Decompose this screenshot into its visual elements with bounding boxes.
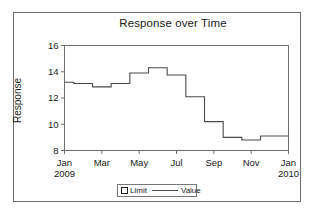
chart-legend: Limit Value xyxy=(117,184,197,197)
x-axis-tick-label: Jan xyxy=(281,157,296,168)
x-axis-tick-label: May xyxy=(130,157,148,168)
x-axis-year-label: 2010 xyxy=(278,168,299,179)
x-axis-year-label: 2009 xyxy=(54,168,75,179)
y-axis-tick-label: 12 xyxy=(48,92,59,103)
value-line-icon xyxy=(152,190,178,191)
legend-label-limit: Limit xyxy=(130,187,147,195)
x-axis-tick-label: Nov xyxy=(243,157,260,168)
legend-entry-limit: Limit xyxy=(121,187,147,195)
plot-frame xyxy=(65,46,289,151)
chart-figure: Response over Time Response 810121416Jan… xyxy=(0,0,315,216)
value-step-line xyxy=(65,68,289,140)
y-axis-tick-label: 8 xyxy=(53,145,58,156)
legend-label-value: Value xyxy=(181,187,201,195)
x-axis-tick-label: Jul xyxy=(170,157,182,168)
limit-swatch-icon xyxy=(121,187,128,194)
y-axis-tick-label: 10 xyxy=(48,119,59,130)
y-axis-tick-label: 16 xyxy=(48,40,59,51)
x-axis-tick-label: Mar xyxy=(94,157,110,168)
legend-entry-value: Value xyxy=(147,187,201,195)
x-axis-tick-label: Jan xyxy=(57,157,72,168)
y-axis-tick-label: 14 xyxy=(48,66,59,77)
x-axis-tick-label: Sep xyxy=(205,157,222,168)
